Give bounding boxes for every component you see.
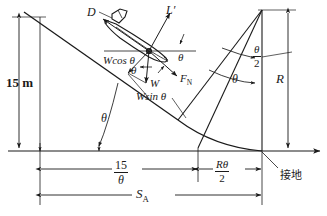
normal-force-symbol: F bbox=[180, 72, 187, 84]
total-distance-label: SA bbox=[136, 187, 149, 203]
lift-vector bbox=[149, 13, 170, 51]
lift-label: L′ bbox=[166, 4, 175, 16]
glide-slope-group bbox=[24, 12, 178, 120]
approach-distance-fraction: 15 θ bbox=[113, 159, 129, 186]
flare-distance-fraction: Rθ 2 bbox=[214, 159, 230, 184]
normal-force-subscript: N bbox=[187, 78, 192, 87]
total-distance-subscript: A bbox=[143, 194, 149, 204]
flare-denominator: 2 bbox=[214, 172, 230, 184]
drag-vector bbox=[103, 19, 149, 51]
aircraft-tail-fin bbox=[112, 9, 127, 23]
half-theta-numerator: θ bbox=[252, 44, 262, 56]
radius-line-bisector bbox=[198, 10, 262, 148]
glide-slope-line bbox=[24, 12, 178, 120]
screen-height-label: 15 m bbox=[6, 76, 33, 89]
theta-pointer-upper-right bbox=[180, 34, 184, 44]
weight-sin-leader-right bbox=[172, 98, 186, 118]
approach-numerator: 15 bbox=[113, 159, 129, 172]
theta-slope-label: θ bbox=[101, 112, 107, 124]
half-theta-tick bbox=[262, 52, 292, 57]
weight-label: W bbox=[150, 78, 159, 89]
landing-geometry-diagram: 15 m D L′ Wcos θ Wsin θ W FN θ θ θ θ R 接… bbox=[0, 0, 327, 216]
theta-body-lower-label: θ bbox=[131, 65, 136, 76]
flare-numerator: Rθ bbox=[214, 159, 230, 171]
theta-pointer-nose bbox=[158, 66, 164, 73]
radius-label: R bbox=[276, 72, 284, 85]
weight-sin-label: Wsin θ bbox=[136, 91, 166, 102]
touchdown-leader-group bbox=[262, 152, 278, 168]
flare-arc-group bbox=[178, 120, 262, 151]
drag-label: D bbox=[87, 6, 96, 18]
half-theta-denominator: 2 bbox=[252, 57, 262, 69]
theta-apex-label: θ bbox=[232, 73, 238, 85]
normal-force-label: FN bbox=[180, 73, 192, 87]
drag-label-leader bbox=[99, 12, 112, 18]
approach-denominator: θ bbox=[113, 173, 129, 186]
touchdown-label: 接地 bbox=[280, 170, 302, 181]
diagram-canvas bbox=[0, 0, 327, 216]
flare-arc bbox=[178, 120, 262, 151]
half-theta-fraction: θ 2 bbox=[252, 44, 262, 69]
touchdown-leader-line bbox=[262, 152, 278, 168]
radius-line-flare-start bbox=[178, 10, 262, 120]
theta-body-right-label: θ bbox=[178, 52, 183, 63]
